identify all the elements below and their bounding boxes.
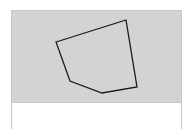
polygon-shape-svg [12, 11, 181, 102]
bottom-panel [12, 102, 181, 129]
drawing-canvas[interactable] [12, 11, 181, 102]
polygon-shape[interactable] [56, 20, 137, 93]
drawing-frame [11, 10, 182, 129]
